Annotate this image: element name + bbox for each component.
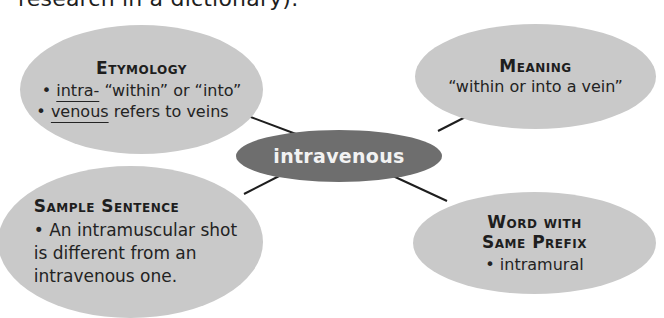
meaning-title: Meaning	[499, 56, 571, 76]
etymology-title: Etymology	[96, 58, 187, 78]
etymology-item: • intra- “within” or “into”	[42, 80, 242, 101]
etymology-item: • venous refers to veins	[36, 101, 228, 122]
etymology-definition: refers to veins	[109, 102, 229, 121]
meaning-text: “within or into a vein”	[448, 76, 623, 97]
etymology-root: intra-	[56, 81, 99, 100]
same-prefix-title-line1: Word with	[487, 212, 582, 232]
same-prefix-item: • intramural	[485, 254, 583, 275]
same-prefix-oval: Word with Same Prefix • intramural	[413, 192, 656, 294]
same-prefix-title-line2: Same Prefix	[482, 232, 587, 252]
sample-sentence-content: Sample Sentence • An intramuscular shot …	[34, 196, 237, 288]
etymology-oval: Etymology • intra- “within” or “into” • …	[20, 25, 263, 154]
center-word: intravenous	[273, 145, 404, 167]
bullet: •	[36, 102, 45, 121]
meaning-oval: Meaning “within or into a vein”	[415, 24, 656, 129]
sample-sentence-line: intravenous one.	[34, 265, 177, 288]
bullet: •	[42, 81, 51, 100]
etymology-definition: “within” or “into”	[99, 81, 241, 100]
center-word-oval: intravenous	[236, 130, 442, 182]
connector-same-prefix	[393, 176, 447, 201]
sample-sentence-title: Sample Sentence	[34, 196, 179, 216]
connector-etymology	[248, 116, 296, 134]
etymology-root: venous	[51, 102, 109, 121]
sample-sentence-line: is different from an	[34, 242, 197, 265]
sample-sentence-oval: Sample Sentence • An intramuscular shot …	[0, 166, 263, 318]
sample-sentence-line: • An intramuscular shot	[34, 219, 237, 242]
